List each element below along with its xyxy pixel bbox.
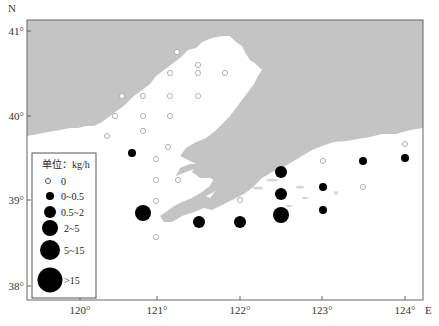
legend-marker-filled [40,240,60,260]
station-zero-marker [360,184,365,189]
legend-item-label: >15 [64,275,80,286]
station-zero-marker [167,70,172,75]
station-zero-marker [165,144,170,149]
lon-tick-label: 123° [312,304,333,316]
legend-title: 单位：kg/h [42,158,90,170]
station-zero-marker [195,70,200,75]
station-zero-marker [167,93,172,98]
station-zero-marker [112,113,117,118]
station-zero-marker [174,49,179,54]
lat-tick-label: 39° [9,194,24,206]
east-label: E [425,304,432,316]
station-zero-marker [222,70,227,75]
station-zero-marker [140,128,145,133]
station-catch-marker [193,216,205,228]
lon-tick-label: 121° [147,304,168,316]
island [334,191,338,195]
station-zero-marker [153,177,158,182]
station-zero-marker [153,234,158,239]
legend-item-label: 0.5~2 [61,207,84,218]
station-zero-marker [195,62,200,67]
station-zero-marker [153,156,158,161]
station-zero-marker [153,198,158,203]
lat-tick-label: 38° [9,280,24,292]
station-zero-marker [140,113,145,118]
legend-item-label: 0~0.5 [61,191,84,202]
station-catch-marker [234,216,246,228]
lat-tick-label: 41° [9,25,24,37]
legend-marker-filled [42,220,58,236]
station-catch-marker [359,157,367,165]
station-zero-marker [320,158,325,163]
legend-item-label: 2~5 [64,223,79,234]
legend-marker-filled [46,192,54,200]
station-zero-marker [402,141,407,146]
lat-tick-label: 40° [9,110,24,122]
legend-marker-filled [44,206,56,218]
map: 41°40°39°38° 120°121°122°123°124° N E 单位… [0,0,439,326]
legend-item-label: 0 [61,176,66,187]
lon-tick-label: 122° [230,304,251,316]
island [302,197,308,199]
station-zero-marker [119,93,124,98]
legend-item-label: 5~15 [64,245,84,256]
station-zero-marker [104,133,109,138]
station-zero-marker [195,93,200,98]
island [266,179,278,182]
station-zero-marker [140,93,145,98]
island [296,186,304,189]
station-catch-marker [273,207,289,223]
station-catch-marker [319,206,327,214]
station-catch-marker [275,166,287,178]
legend: 单位：kg/h 00~0.50.5~22~55~15>15 [32,153,96,298]
station-catch-marker [401,154,409,162]
station-zero-marker [237,197,242,202]
legend-marker-filled [38,268,63,293]
station-catch-marker [275,188,287,200]
station-zero-marker [167,113,172,118]
station-catch-marker [135,205,151,221]
lon-tick-label: 124° [395,304,416,316]
station-catch-marker [128,149,136,157]
island [253,187,263,190]
lon-tick-label: 120° [70,304,91,316]
legend-marker-empty [46,179,51,184]
station-zero-marker [175,177,180,182]
north-label: N [8,2,16,14]
island [286,205,292,207]
station-catch-marker [319,183,327,191]
